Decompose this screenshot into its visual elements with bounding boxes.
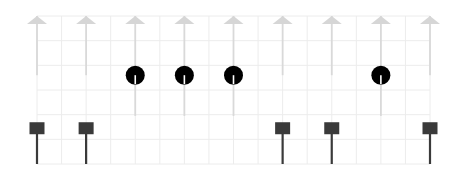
triangle-up-marker-icon — [224, 16, 244, 24]
triangle-up-marker-icon — [371, 16, 391, 24]
square-marker-icon — [275, 122, 290, 134]
triangle-up-marker-icon — [125, 16, 145, 24]
stem-chart — [0, 0, 460, 174]
triangle-up-marker-icon — [420, 16, 440, 24]
triangle-up-marker-icon — [322, 16, 342, 24]
triangle-up-marker-icon — [27, 16, 47, 24]
square-marker-icon — [79, 122, 94, 134]
square-marker-icon — [324, 122, 339, 134]
triangle-up-marker-icon — [273, 16, 293, 24]
triangle-up-marker-icon — [76, 16, 96, 24]
square-marker-icon — [423, 122, 438, 134]
square-marker-icon — [30, 122, 45, 134]
triangle-up-marker-icon — [174, 16, 194, 24]
